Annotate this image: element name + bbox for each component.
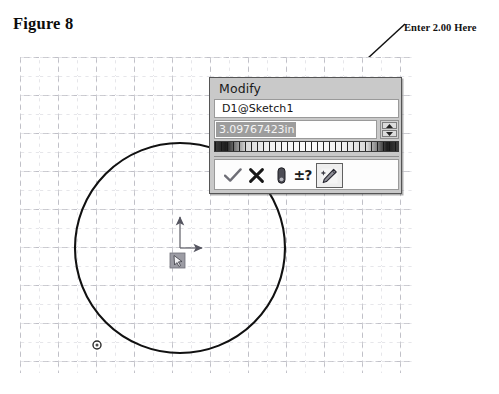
rebuild-wand-icon [321,168,338,184]
annotation-label: Enter 2.00 Here [404,22,477,33]
x-cross-icon [249,168,264,183]
dialog-title: Modify [219,81,261,96]
value-row: 3.09767423in [214,120,399,139]
dialog-button-bar: ±? [214,159,399,190]
spinner-up-button[interactable] [382,122,397,129]
dimension-name-value: D1@Sketch1 [222,102,294,115]
value-thumbwheel[interactable] [214,141,399,152]
dialog-separator [214,156,399,157]
dialog-body: D1@Sketch1 3.09767423in [214,99,399,191]
caret-down-icon [386,132,393,136]
dialog-titlebar[interactable]: Modify [210,78,401,100]
figure-page: Figure 8 Enter 2.00 Here [0,0,499,394]
dimension-value-text: 3.09767423in [216,122,296,137]
cutoff-text-line [30,0,450,2]
accept-button[interactable] [221,164,244,186]
thumbtack-pin-icon [277,167,286,184]
rebuild-button[interactable] [316,163,343,188]
value-spinner[interactable] [380,120,399,139]
modify-dialog[interactable]: Modify D1@Sketch1 3.09767423in [209,77,402,194]
tolerance-button[interactable]: ±? [291,164,314,186]
cancel-button[interactable] [245,164,268,186]
pointer-select-icon [170,253,185,268]
checkmark-icon [224,168,242,183]
thumbwheel-ticks [215,142,398,151]
dimension-value-input[interactable]: 3.09767423in [214,120,377,139]
pin-button[interactable] [270,164,293,186]
tolerance-button-label: ±? [294,167,312,183]
caret-up-icon [386,124,393,128]
figure-caption: Figure 8 [13,14,73,34]
spinner-down-button[interactable] [382,130,397,137]
dimension-name-field[interactable]: D1@Sketch1 [214,99,399,118]
